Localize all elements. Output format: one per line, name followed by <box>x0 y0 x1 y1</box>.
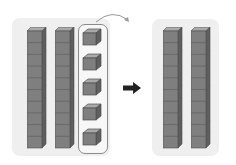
tens-rod-icon <box>55 27 75 149</box>
tens-rod-icon <box>27 27 47 149</box>
curved-arrow <box>94 8 134 30</box>
right-tens-rod-1 <box>163 27 183 149</box>
tens-rod-icon <box>163 27 183 149</box>
left-tens-rod-1 <box>27 27 47 149</box>
arrow-right-icon <box>123 82 143 94</box>
curved-arrow-icon <box>94 8 134 30</box>
right-arrow <box>123 82 143 94</box>
left-tens-rod-2 <box>55 27 75 149</box>
right-tens-rod-2 <box>191 27 211 149</box>
tens-rod-icon <box>191 27 211 149</box>
ones-cubes <box>82 28 104 152</box>
ones-cubes-icon <box>82 28 104 152</box>
